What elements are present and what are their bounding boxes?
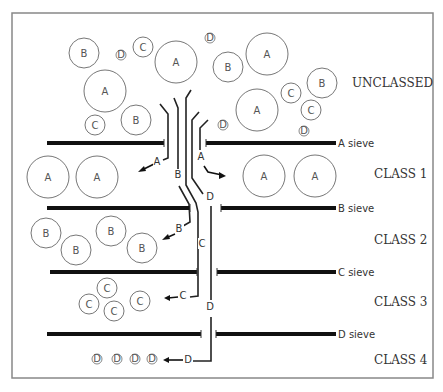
particle-c: C — [281, 83, 301, 103]
arrowhead-icon — [162, 234, 170, 240]
sieve-label: D sieve — [338, 329, 375, 340]
particle-c: C — [97, 278, 117, 298]
channel-a-left — [160, 104, 168, 160]
particle-b: B — [127, 233, 157, 263]
particle-d: D — [218, 119, 228, 130]
particle-d: D — [116, 49, 126, 60]
particle-a: A — [155, 41, 197, 83]
channel-label: C — [199, 238, 206, 249]
particle-d: D — [92, 353, 102, 364]
particle-label: D — [219, 119, 227, 130]
flow-channels — [160, 90, 211, 361]
particle-b: B — [69, 38, 99, 68]
class-label-class1: CLASS 1 — [374, 167, 428, 181]
particle-b: B — [31, 218, 61, 248]
particle-c: C — [133, 37, 153, 57]
particle-label: A — [264, 49, 271, 60]
particle-label: D — [113, 353, 121, 364]
particle-label: A — [261, 171, 268, 182]
particle-a: A — [84, 70, 126, 112]
particle-label: C — [140, 42, 147, 53]
particle-label: A — [45, 172, 52, 183]
class-label-class3: CLASS 3 — [374, 295, 428, 309]
particle-b: B — [213, 52, 243, 82]
arrowhead-icon — [163, 357, 169, 363]
class-labels: UNCLASSEDCLASS 1CLASS 2CLASS 3CLASS 4 — [352, 76, 433, 367]
diagram-canvas: A sieveB sieveC sieveD sieve BDCADBAACBB… — [0, 0, 443, 392]
particle-label: A — [173, 57, 180, 68]
particle-a: A — [236, 89, 278, 131]
particle-label: B — [133, 115, 140, 126]
particle-label: D — [148, 353, 156, 364]
particle-label: B — [225, 62, 232, 73]
channel-label: A — [198, 151, 205, 162]
particle-label: D — [131, 353, 139, 364]
particle-label: C — [104, 283, 111, 294]
class-label-class4: CLASS 4 — [374, 353, 428, 367]
class-label-unclassed: UNCLASSED — [352, 76, 433, 90]
particle-b: B — [96, 216, 126, 246]
particle-b: B — [61, 235, 91, 265]
sieve-label: C sieve — [338, 267, 374, 278]
particle-label: D — [206, 32, 214, 43]
particle-a: A — [243, 155, 285, 197]
particle-label: A — [254, 105, 261, 116]
particle-label: B — [139, 243, 146, 254]
particle-label: C — [288, 88, 295, 99]
particle-d: D — [205, 32, 215, 43]
particle-label: B — [73, 245, 80, 256]
particle-d: D — [130, 353, 140, 364]
channel-label: D — [206, 191, 214, 202]
channel-label: A — [154, 156, 161, 167]
particle-c: C — [301, 100, 321, 120]
arrowhead-icon — [138, 166, 146, 172]
arrowhead-icon — [219, 172, 226, 179]
channel-label: D — [206, 301, 214, 312]
particle-b: B — [307, 68, 337, 98]
sieve-label: A sieve — [338, 138, 374, 149]
particle-label: D — [300, 125, 308, 136]
particle-label: D — [93, 353, 101, 364]
particle-d: D — [147, 353, 157, 364]
channel-label: B — [175, 169, 182, 180]
particle-label: D — [117, 49, 125, 60]
channel-label: C — [180, 290, 187, 301]
sieve-a: A sieve — [47, 138, 374, 149]
particle-d: D — [299, 125, 309, 136]
particle-label: B — [43, 228, 50, 239]
particle-classification-diagram: A sieveB sieveC sieveD sieve BDCADBAACBB… — [0, 0, 443, 392]
particle-label: C — [308, 105, 315, 116]
particle-label: A — [102, 86, 109, 97]
particle-label: B — [81, 48, 88, 59]
sieve-c: C sieve — [50, 267, 374, 278]
particle-a: A — [294, 155, 336, 197]
channel-label: D — [184, 354, 192, 365]
particle-label: A — [94, 172, 101, 183]
particle-label: C — [111, 306, 118, 317]
channel-d-lower — [193, 317, 211, 361]
particle-a: A — [27, 156, 69, 198]
arrowhead-icon — [164, 295, 170, 301]
particle-c: C — [104, 301, 124, 321]
class-label-class2: CLASS 2 — [374, 233, 428, 247]
particle-c: C — [79, 294, 99, 314]
particle-label: B — [319, 78, 326, 89]
particle-label: C — [92, 120, 99, 131]
particle-d: D — [112, 353, 122, 364]
particle-label: A — [312, 171, 319, 182]
sieve-label: B sieve — [338, 203, 374, 214]
particle-a: A — [246, 33, 288, 75]
particle-label: C — [86, 299, 93, 310]
particle-label: C — [137, 296, 144, 307]
particle-b: B — [121, 105, 151, 135]
particle-a: A — [76, 156, 118, 198]
particle-c: C — [130, 291, 150, 311]
particle-c: C — [85, 115, 105, 135]
channel-b-left-wall — [174, 98, 178, 170]
channel-a-right — [200, 120, 208, 150]
channel-label: B — [176, 223, 183, 234]
particle-label: B — [108, 226, 115, 237]
particles: BDCADBAACBBCCADDAAAABBBBCCCCDDDD — [27, 32, 337, 364]
